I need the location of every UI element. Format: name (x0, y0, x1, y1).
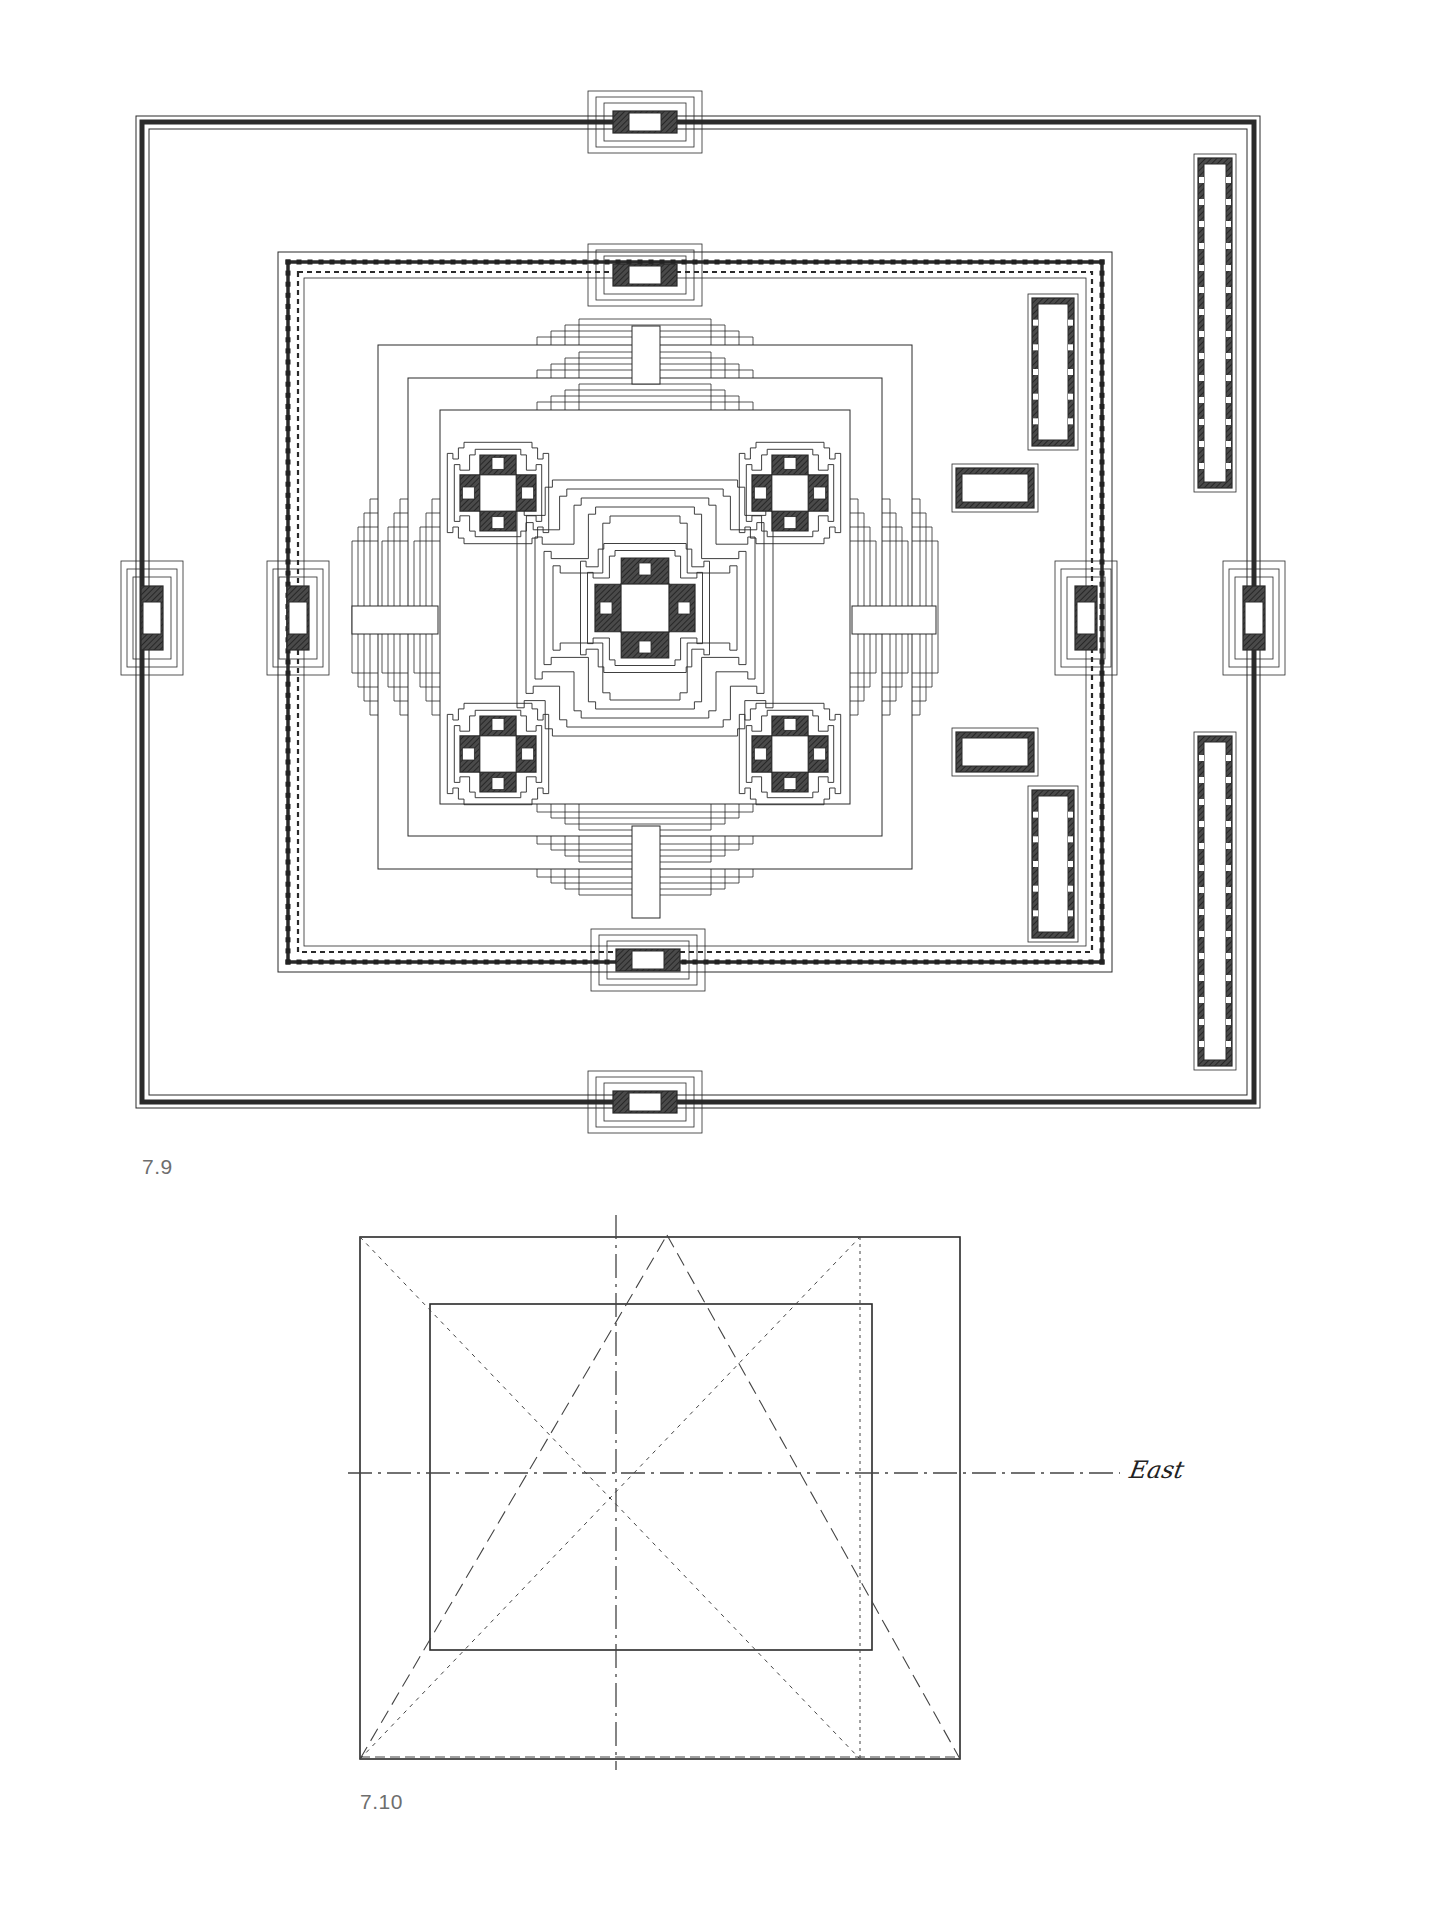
window (1199, 953, 1204, 959)
pillar (385, 960, 390, 965)
pillar (286, 371, 291, 376)
pillar (451, 960, 456, 965)
pillar (913, 960, 918, 965)
pillar (374, 260, 379, 265)
pillar (286, 415, 291, 420)
pillar (1100, 271, 1105, 276)
pillar (286, 826, 291, 831)
pillar (286, 315, 291, 320)
pillar (759, 960, 764, 965)
plan-canvas (0, 0, 1436, 1905)
pillar (792, 260, 797, 265)
pillar (836, 260, 841, 265)
pillar (319, 960, 324, 965)
pillar (286, 682, 291, 687)
pillar (935, 960, 940, 965)
library-2 (1028, 786, 1078, 942)
pillar (1100, 904, 1105, 909)
pillar (583, 260, 588, 265)
pillar (286, 537, 291, 542)
shrine-doorway (784, 457, 796, 469)
gopura-chamber (1245, 602, 1263, 634)
pillar (1100, 815, 1105, 820)
gopura-chamber (289, 602, 307, 634)
pillar (286, 515, 291, 520)
window (1068, 344, 1073, 350)
pillar (825, 960, 830, 965)
pillar (484, 960, 489, 965)
window (1033, 394, 1038, 400)
pillar (286, 737, 291, 742)
shrine-doorway (784, 517, 796, 529)
corner-shrine-2 (739, 442, 840, 543)
pillar (506, 960, 511, 965)
pillar (286, 271, 291, 276)
pillar (1100, 626, 1105, 631)
shrine-cella (772, 475, 808, 511)
building-interior (1038, 796, 1068, 932)
stairway-2 (352, 606, 438, 634)
pillar (957, 260, 962, 265)
pillar (1100, 704, 1105, 709)
window (1226, 909, 1231, 915)
window (1226, 419, 1231, 425)
pillar (286, 815, 291, 820)
terrace-step-north (579, 384, 711, 410)
pillar (462, 960, 467, 965)
pillar (286, 904, 291, 909)
pillar (286, 837, 291, 842)
window (1199, 177, 1204, 183)
pillar (1056, 960, 1061, 965)
shrine-doorway (600, 602, 612, 614)
pillar (286, 937, 291, 942)
terrace-step-north (565, 390, 725, 410)
pillar (1100, 260, 1105, 265)
shrine-doorway (462, 748, 474, 760)
pillar (286, 404, 291, 409)
shrine-doorway (492, 778, 504, 790)
pillar (990, 960, 995, 965)
pillar (1100, 682, 1105, 687)
shrine-doorway (754, 487, 766, 499)
pillar (286, 760, 291, 765)
pillar (1100, 437, 1105, 442)
pillar (1001, 960, 1006, 965)
pillar (913, 260, 918, 265)
window (1226, 331, 1231, 337)
pillar (968, 960, 973, 965)
gopura-chamber (1077, 602, 1095, 634)
shrine-doorway (522, 748, 534, 760)
window (1068, 861, 1073, 867)
window (1199, 199, 1204, 205)
shrine-doorway (639, 563, 651, 575)
pillar (1100, 360, 1105, 365)
window (1226, 975, 1231, 981)
pillar (1100, 837, 1105, 842)
window (1226, 887, 1231, 893)
pillar (517, 260, 522, 265)
pillar (286, 882, 291, 887)
pillar (1089, 260, 1094, 265)
pillar (418, 960, 423, 965)
library-3 (952, 464, 1038, 512)
pillar (286, 871, 291, 876)
window (1199, 353, 1204, 359)
pillar (1100, 304, 1105, 309)
pillar (1100, 948, 1105, 953)
pillar (286, 693, 291, 698)
pillar (1100, 337, 1105, 342)
pillar (286, 782, 291, 787)
window (1199, 975, 1204, 981)
shrine-cella (621, 584, 669, 632)
window (1199, 777, 1204, 783)
east-direction-label: East (1128, 1456, 1187, 1484)
pillar (1100, 771, 1105, 776)
pillar (1100, 637, 1105, 642)
window (1226, 821, 1231, 827)
pillar (286, 960, 291, 965)
pillar (1100, 593, 1105, 598)
pillar (286, 571, 291, 576)
pillar (517, 960, 522, 965)
pillar (286, 704, 291, 709)
pillar (715, 960, 720, 965)
